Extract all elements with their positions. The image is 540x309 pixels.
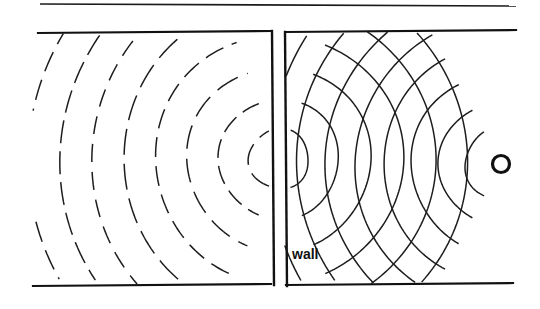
wavefront-arc xyxy=(367,32,436,284)
top-rule-line xyxy=(40,4,516,6)
wavefront-arc xyxy=(60,34,101,280)
wavefront-arc xyxy=(290,130,308,187)
chamber-bottom-border-right xyxy=(286,283,513,285)
chamber-top-border-left xyxy=(38,31,271,33)
wavefront-arc xyxy=(411,85,459,244)
wall-left-edge xyxy=(272,31,274,285)
wavefront-arc xyxy=(34,214,59,279)
wavefront-arc xyxy=(248,131,269,186)
wavefront-arc xyxy=(33,33,63,110)
wavefront-arc xyxy=(92,35,138,284)
top-rule xyxy=(40,4,516,6)
wavefront-arc xyxy=(302,103,339,215)
wavefront-arc xyxy=(325,45,404,274)
wavefront-arc xyxy=(218,104,259,215)
figure-canvas: wall xyxy=(0,0,540,309)
wall xyxy=(272,31,287,286)
wavefront-arc xyxy=(313,74,371,244)
point-source-icon xyxy=(493,156,510,173)
diffracted-wavefronts-left xyxy=(33,33,269,284)
wavefront-arc xyxy=(156,43,237,277)
wavefront-arc xyxy=(124,34,183,283)
chamber-bottom-border-left xyxy=(33,284,271,286)
wavefront-arc xyxy=(187,73,248,246)
chamber-top-border-right xyxy=(286,30,516,32)
diffraction-figure: wall xyxy=(0,0,540,309)
wavefront-arc xyxy=(297,33,344,280)
wavefront-arc xyxy=(286,36,307,76)
wavefront-arc xyxy=(417,33,468,282)
wall-label: wall xyxy=(291,246,318,262)
